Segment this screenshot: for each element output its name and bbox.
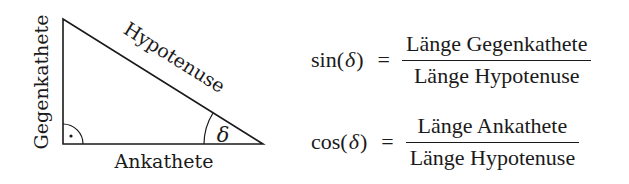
cosine-denominator: Länge Hypotenuse <box>406 144 580 172</box>
sine-lhs: sin ( δ ) <box>311 47 364 73</box>
right-angle-arc <box>63 124 83 144</box>
hypotenuse-label: Hypotenuse <box>120 17 229 97</box>
delta-angle-arc <box>204 113 213 144</box>
right-triangle-diagram: δ Gegenkathete Hypotenuse Ankathete <box>0 0 300 184</box>
sine-numerator: Länge Gegenkathete <box>402 30 591 58</box>
sine-function-name: sin <box>311 47 337 73</box>
close-paren: ) <box>360 129 367 155</box>
right-angle-dot <box>69 134 72 137</box>
opposite-side-label: Gegenkathete <box>30 15 52 150</box>
fraction-bar <box>406 142 580 143</box>
cosine-function-name: cos <box>311 129 340 155</box>
open-paren: ( <box>340 129 347 155</box>
cosine-lhs: cos ( δ ) <box>311 129 367 155</box>
sine-fraction: Länge Gegenkathete Länge Hypotenuse <box>402 30 591 90</box>
cosine-fraction: Länge Ankathete Länge Hypotenuse <box>406 112 580 172</box>
adjacent-side-label: Ankathete <box>114 150 214 172</box>
equals-sign: = <box>378 47 390 73</box>
delta-variable: δ <box>348 129 360 155</box>
cosine-formula: cos ( δ ) = Länge Ankathete Länge Hypote… <box>311 112 579 172</box>
open-paren: ( <box>337 47 344 73</box>
sine-formula: sin ( δ ) = Länge Gegenkathete Länge Hyp… <box>311 30 591 90</box>
delta-angle-label: δ <box>217 123 230 147</box>
cosine-numerator: Länge Ankathete <box>414 112 572 140</box>
sine-denominator: Länge Hypotenuse <box>410 62 584 90</box>
close-paren: ) <box>356 47 363 73</box>
fraction-bar <box>402 60 591 61</box>
equals-sign: = <box>381 129 393 155</box>
delta-variable: δ <box>344 47 356 73</box>
